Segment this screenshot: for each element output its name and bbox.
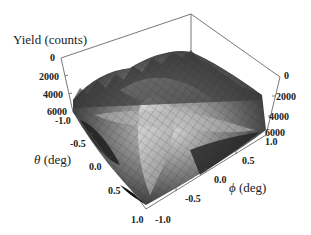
- z-tick-right: 4000: [269, 111, 289, 122]
- theta-axis-title: θ (deg): [34, 152, 71, 168]
- z-axis-title: Yield (counts): [13, 32, 87, 48]
- phi-tick: 1.0: [265, 136, 278, 147]
- theta-tick: -1.0: [55, 115, 71, 126]
- phi-tick: -0.5: [185, 193, 201, 204]
- phi-axis-title: ϕ (deg): [229, 180, 266, 196]
- theta-tick: -0.5: [70, 138, 86, 149]
- theta-tick: 0.5: [108, 185, 121, 196]
- theta-symbol: θ: [34, 152, 40, 167]
- z-tick-left: 0: [50, 52, 55, 63]
- phi-tick: 0.5: [242, 155, 255, 166]
- z-tick-left: 4000: [43, 89, 63, 100]
- phi-tick: 0.0: [214, 174, 227, 185]
- theta-unit: (deg): [44, 152, 71, 167]
- phi-tick: -1.0: [155, 214, 171, 225]
- phi-unit: (deg): [239, 180, 266, 195]
- theta-tick: 1.0: [131, 214, 144, 225]
- z-tick-right: 2000: [276, 91, 296, 102]
- z-tick-left: 2000: [39, 71, 59, 82]
- z-tick-right: 0: [284, 70, 289, 81]
- theta-tick: 0.0: [89, 161, 102, 172]
- phi-symbol: ϕ: [229, 180, 236, 195]
